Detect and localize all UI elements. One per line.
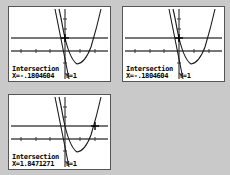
calculator-screenshot-sheet: Intersection X=-.1804604 Y=1 xyxy=(0,0,230,175)
graph-canvas-3 xyxy=(9,95,110,169)
calculator-panel-3[interactable]: Intersection X=1.8471271 Y=1 xyxy=(8,94,111,170)
graph-canvas-2 xyxy=(123,7,224,81)
intersection-cursor xyxy=(175,34,183,42)
calculator-panel-2[interactable]: Intersection X=-.1804604 Y=1 xyxy=(122,6,225,82)
graph-canvas-1 xyxy=(9,7,110,81)
intersection-cursor xyxy=(61,34,69,42)
calculator-panel-1[interactable]: Intersection X=-.1804604 Y=1 xyxy=(8,6,111,82)
intersection-cursor xyxy=(91,122,99,130)
calculator-screen-3: Intersection X=1.8471271 Y=1 xyxy=(9,95,110,169)
calculator-screen-2: Intersection X=-.1804604 Y=1 xyxy=(123,7,224,81)
calculator-screen-1: Intersection X=-.1804604 Y=1 xyxy=(9,7,110,81)
